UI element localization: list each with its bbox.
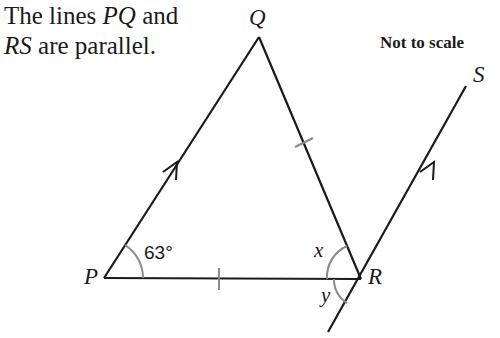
- diagram: The lines PQ and RS are parallel. Not to…: [0, 0, 500, 338]
- vertex-label-r: R: [368, 264, 382, 290]
- statement-text: are parallel.: [32, 32, 156, 59]
- line-name-pq: PQ: [103, 2, 136, 29]
- line-rs: [328, 86, 466, 332]
- line-name-rs: RS: [4, 32, 32, 59]
- line-pr: [104, 278, 361, 279]
- vertex-label-s: S: [473, 62, 485, 88]
- line-qr: [259, 37, 361, 279]
- vertex-label-q: Q: [249, 5, 266, 31]
- angle-label-x: x: [314, 238, 323, 263]
- angle-label-p: 63°: [144, 242, 173, 264]
- statement-line-2: RS are parallel.: [4, 31, 178, 61]
- angle-label-y: y: [321, 283, 330, 308]
- line-pq: [104, 37, 259, 278]
- statement-text: The lines: [4, 2, 103, 29]
- not-to-scale-note: Not to scale: [380, 33, 464, 53]
- problem-statement: The lines PQ and RS are parallel.: [4, 1, 178, 61]
- statement-line-1: The lines PQ and: [4, 1, 178, 31]
- angle-arc-x-icon: [327, 246, 347, 279]
- statement-text: and: [136, 2, 178, 29]
- vertex-label-p: P: [84, 264, 98, 290]
- angle-arc-p-icon: [125, 245, 143, 278]
